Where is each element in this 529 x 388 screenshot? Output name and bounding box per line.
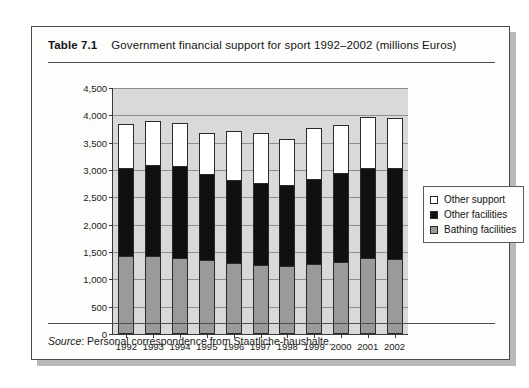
bar-segment[interactable] <box>306 128 322 180</box>
bar-segment[interactable] <box>118 124 134 169</box>
bar-segment[interactable] <box>333 125 349 174</box>
legend-swatch-icon <box>430 226 438 234</box>
x-axis-tick-label: 2001 <box>357 341 378 352</box>
y-axis-tick-label: 2,500 <box>83 192 107 203</box>
bar-segment[interactable] <box>118 168 134 258</box>
figure-panel: Table 7.1Government financial support fo… <box>31 26 510 360</box>
legend-item[interactable]: Other support <box>430 192 516 207</box>
table-number: Table 7.1 <box>48 39 97 51</box>
bar-segment[interactable] <box>333 173 349 263</box>
bar-segment[interactable] <box>145 165 161 258</box>
bar-group[interactable] <box>145 88 161 334</box>
bar-segment[interactable] <box>306 179 322 264</box>
y-axis-tick-label: 3,500 <box>83 137 107 148</box>
bar-segment[interactable] <box>199 174 215 261</box>
legend-item-label: Other support <box>444 194 505 205</box>
legend-swatch-icon <box>430 211 438 219</box>
bar-group[interactable] <box>226 88 242 334</box>
y-axis-tick-label: 4,500 <box>83 83 107 94</box>
legend-item[interactable]: Bathing facilities <box>430 222 516 237</box>
chart-legend: Other supportOther facilitiesBathing fac… <box>423 186 524 243</box>
bars-container <box>113 88 408 334</box>
bar-segment[interactable] <box>360 117 376 169</box>
bar-group[interactable] <box>333 88 349 334</box>
source-text: : Personal correspondence from Staatlich… <box>81 335 331 347</box>
y-axis-tick-label: 1,000 <box>83 274 107 285</box>
x-axis-tick <box>368 334 369 338</box>
bar-segment[interactable] <box>172 123 188 168</box>
bar-group[interactable] <box>253 88 269 334</box>
x-axis-tick <box>341 334 342 338</box>
bar-group[interactable] <box>199 88 215 334</box>
source-note: Source: Personal correspondence from Sta… <box>48 335 332 347</box>
y-axis-tick-label: 3,000 <box>83 165 107 176</box>
bar-segment[interactable] <box>253 133 269 184</box>
table-title: Government financial support for sport 1… <box>111 39 456 51</box>
x-axis-tick-label: 2000 <box>330 341 351 352</box>
legend-item-label: Bathing facilities <box>444 224 516 235</box>
table-caption: Table 7.1Government financial support fo… <box>48 39 496 51</box>
source-label: Source <box>48 335 81 347</box>
x-axis-tick-label: 2002 <box>384 341 405 352</box>
legend-item-label: Other facilities <box>444 209 507 220</box>
y-axis-tick-label: 2,000 <box>83 219 107 230</box>
bar-segment[interactable] <box>279 139 295 186</box>
bar-segment[interactable] <box>387 168 403 260</box>
plot-area: 05001,0001,5002,0002,5003,0003,5004,0004… <box>112 88 408 335</box>
bar-segment[interactable] <box>145 121 161 166</box>
x-axis-tick <box>395 334 396 338</box>
bar-segment[interactable] <box>360 168 376 259</box>
bar-segment[interactable] <box>279 185 295 266</box>
legend-swatch-icon <box>430 196 438 204</box>
bar-group[interactable] <box>360 88 376 334</box>
y-axis-tick-label: 1,500 <box>83 247 107 258</box>
bar-group[interactable] <box>387 88 403 334</box>
bar-segment[interactable] <box>387 118 403 169</box>
bar-segment[interactable] <box>172 166 188 258</box>
bar-group[interactable] <box>306 88 322 334</box>
legend-item[interactable]: Other facilities <box>430 207 516 222</box>
bar-group[interactable] <box>279 88 295 334</box>
bar-group[interactable] <box>118 88 134 334</box>
bar-segment[interactable] <box>253 183 269 265</box>
bar-group[interactable] <box>172 88 188 334</box>
bar-segment[interactable] <box>226 180 242 264</box>
bar-segment[interactable] <box>226 131 242 181</box>
y-axis-tick-label: 500 <box>91 301 107 312</box>
source-divider <box>48 323 495 324</box>
y-axis-tick-label: 4,000 <box>83 110 107 121</box>
bar-segment[interactable] <box>199 133 215 175</box>
